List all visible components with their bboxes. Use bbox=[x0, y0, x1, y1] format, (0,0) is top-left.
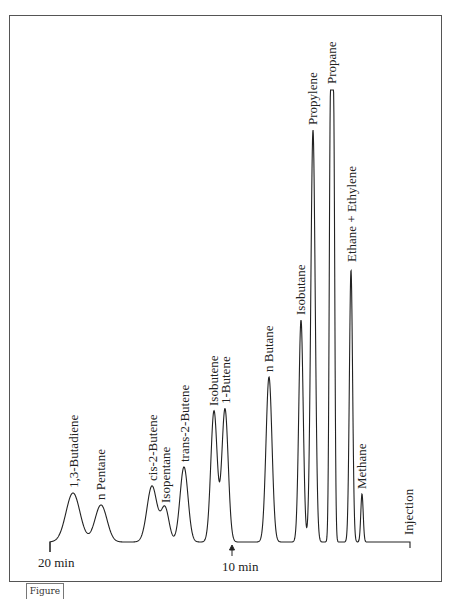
peak-label-1-butene: 1-Butene bbox=[218, 356, 233, 404]
peak-label-isopentane: Isopentane bbox=[158, 446, 173, 503]
arrow-up-icon bbox=[230, 545, 235, 556]
peak-label-isobutane: Isobutane bbox=[293, 264, 308, 315]
peak-label-ethane-ethylene: Ethane + Ethylene bbox=[344, 166, 359, 262]
peak-label-1-3-butadiene: 1,3-Butadiene bbox=[66, 414, 81, 488]
peak-label-propylene: Propylene bbox=[305, 72, 320, 125]
label-10-min: 10 min bbox=[222, 559, 259, 574]
peak-label-propane: Propane bbox=[324, 41, 339, 84]
peak-label-n-pentane: n Pentane bbox=[93, 449, 108, 500]
time-markers: 20 min 10 min bbox=[38, 542, 259, 574]
label-20-min: 20 min bbox=[38, 555, 75, 570]
peak-label-n-butane: n Butane bbox=[261, 325, 276, 372]
peak-label-methane: Methane bbox=[354, 443, 369, 489]
peak-labels: 1,3-Butadienen Pentanecis-2-ButeneIsopen… bbox=[66, 41, 416, 535]
peak-label-injection: Injection bbox=[401, 488, 416, 535]
peak-label-trans-2-butene: trans-2-Butene bbox=[177, 385, 192, 462]
